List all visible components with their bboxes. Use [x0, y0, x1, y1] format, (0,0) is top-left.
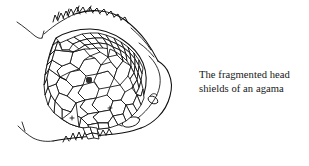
crest-spike — [100, 9, 107, 15]
jaw-spike — [76, 132, 82, 139]
neck-line-upper — [17, 22, 42, 38]
nostril-detail-line — [150, 94, 157, 96]
cheek-contour-line — [131, 28, 151, 50]
caption-line-1: The fragmented head — [199, 68, 307, 82]
nostril-oval — [147, 95, 159, 106]
nostril-group — [147, 94, 159, 106]
caption-line-2: shields of an agama — [199, 82, 307, 96]
head-shield-mosaic — [44, 29, 146, 139]
neck-tick-upper — [42, 31, 44, 38]
jaw-spike — [70, 133, 76, 140]
neck-line-lower — [18, 126, 53, 141]
dorsal-crest-spikes — [53, 6, 128, 23]
parietal-scale — [87, 78, 92, 83]
scale-cell — [98, 123, 109, 129]
figure-root: The fragmented head shields of an agama — [0, 0, 309, 166]
caption-block: The fragmented head shields of an agama — [199, 68, 307, 95]
